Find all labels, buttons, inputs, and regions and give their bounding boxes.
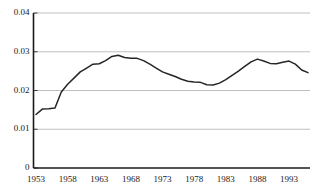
series-line-series-1 <box>36 55 308 114</box>
data-series <box>36 55 308 114</box>
x-axis-tick-label: 1993 <box>269 175 309 184</box>
y-axis-tick-label: 0.04 <box>14 8 30 17</box>
gridlines <box>34 13 311 129</box>
y-axis-tick-label: 0.02 <box>14 86 30 95</box>
y-axis-tick-label: 0.01 <box>14 124 30 133</box>
line-chart-plot <box>0 0 318 195</box>
y-axis-tick-label: 0.03 <box>14 47 30 56</box>
y-axis-tick-label: 0 <box>25 163 30 172</box>
chart-container: 00.010.020.030.04 1953195819631968197319… <box>0 0 318 195</box>
